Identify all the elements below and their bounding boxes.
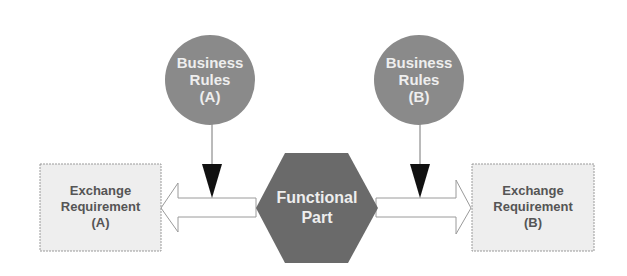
triangle-marker-a: [202, 164, 222, 198]
business-rules-b-line2: Rules: [374, 71, 464, 88]
functional-part-line1: Functional: [256, 188, 378, 208]
business-rules-b-line3: (B): [374, 88, 464, 105]
business-rules-a-line1: Business: [165, 54, 255, 71]
exchange-requirement-a-line3: (A): [40, 215, 161, 231]
exchange-requirement-b-line1: Exchange: [472, 183, 594, 199]
exchange-requirement-a-label: Exchange Requirement (A): [40, 183, 161, 231]
business-rules-a-line2: Rules: [165, 71, 255, 88]
business-rules-b-label: Business Rules (B): [374, 54, 464, 105]
diagram-canvas: [0, 0, 627, 276]
business-rules-a-label: Business Rules (A): [165, 54, 255, 105]
business-rules-a-line3: (A): [165, 88, 255, 105]
business-rules-b-line1: Business: [374, 54, 464, 71]
functional-part-label: Functional Part: [256, 188, 378, 228]
functional-part-line2: Part: [256, 208, 378, 228]
arrow-to-exchange-a: [161, 183, 256, 232]
triangle-marker-b: [410, 164, 430, 198]
exchange-requirement-a-line1: Exchange: [40, 183, 161, 199]
exchange-requirement-b-label: Exchange Requirement (B): [472, 183, 594, 231]
exchange-requirement-b-line3: (B): [472, 215, 594, 231]
arrow-to-exchange-b: [376, 180, 471, 234]
exchange-requirement-a-line2: Requirement: [40, 199, 161, 215]
exchange-requirement-b-line2: Requirement: [472, 199, 594, 215]
